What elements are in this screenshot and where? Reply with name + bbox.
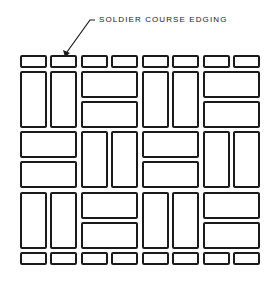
- vertical-brick: [20, 71, 47, 128]
- top-soldier-brick: [81, 55, 108, 68]
- top-soldier-brick: [111, 55, 138, 68]
- horizontal-brick: [142, 161, 199, 188]
- horizontal-brick: [203, 101, 260, 128]
- soldier-course-label: SOLDIER COURSE EDGING: [99, 15, 227, 24]
- vertical-brick: [172, 71, 199, 128]
- vertical-brick: [81, 131, 108, 188]
- bottom-soldier-brick: [81, 252, 108, 265]
- vertical-brick: [172, 192, 199, 249]
- horizontal-brick: [203, 71, 260, 98]
- top-soldier-brick: [20, 55, 47, 68]
- bottom-soldier-brick: [203, 252, 230, 265]
- top-soldier-brick: [50, 55, 77, 68]
- bottom-soldier-brick: [20, 252, 47, 265]
- bottom-soldier-brick: [142, 252, 169, 265]
- horizontal-brick: [81, 192, 138, 219]
- horizontal-brick: [81, 71, 138, 98]
- vertical-brick: [50, 192, 77, 249]
- vertical-brick: [20, 192, 47, 249]
- horizontal-brick: [142, 131, 199, 158]
- bottom-soldier-brick: [172, 252, 199, 265]
- top-soldier-brick: [172, 55, 199, 68]
- top-soldier-brick: [233, 55, 260, 68]
- vertical-brick: [50, 71, 77, 128]
- top-soldier-brick: [203, 55, 230, 68]
- vertical-brick: [142, 71, 169, 128]
- top-soldier-brick: [142, 55, 169, 68]
- horizontal-brick: [20, 161, 77, 188]
- horizontal-brick: [203, 192, 260, 219]
- vertical-brick: [233, 131, 260, 188]
- bottom-soldier-brick: [111, 252, 138, 265]
- bottom-soldier-brick: [233, 252, 260, 265]
- vertical-brick: [142, 192, 169, 249]
- horizontal-brick: [203, 222, 260, 249]
- vertical-brick: [111, 131, 138, 188]
- vertical-brick: [203, 131, 230, 188]
- horizontal-brick: [20, 131, 77, 158]
- horizontal-brick: [81, 222, 138, 249]
- horizontal-brick: [81, 101, 138, 128]
- bottom-soldier-brick: [50, 252, 77, 265]
